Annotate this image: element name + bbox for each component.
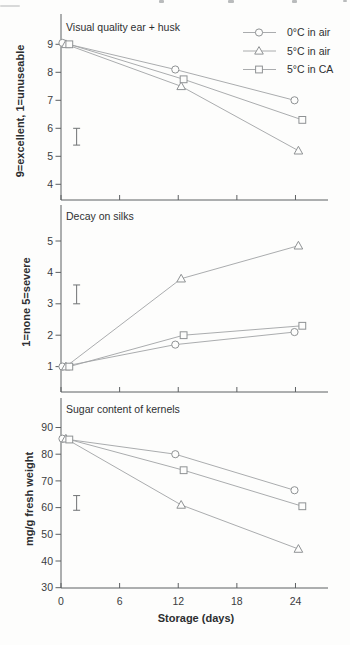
x-tick-label: 0: [58, 595, 64, 607]
circle-marker-icon: [172, 341, 179, 348]
y-tick-label: 50: [41, 528, 53, 540]
legend-label: 5°C in air: [287, 45, 331, 57]
series-line-triangle: [66, 246, 299, 367]
series-line-circle: [62, 439, 294, 491]
legend-item-5c-ca: 5°C in CA: [243, 63, 333, 75]
x-axis-label: Storage (days): [158, 612, 235, 624]
circle-marker-icon: [255, 29, 262, 36]
error-bar: [73, 496, 80, 511]
y-tick-label: 90: [41, 421, 53, 433]
triangle-marker-icon: [255, 47, 264, 55]
y-tick-label: 60: [41, 501, 53, 513]
circle-marker-icon: [291, 487, 298, 494]
square-marker-icon: [180, 467, 187, 474]
y-axis-label-sugar: mg/g fresh weight: [23, 452, 35, 546]
y-axis-label-decay: 1=none 5=severe: [20, 257, 32, 346]
panel-title-visual-quality: Visual quality ear + husk: [66, 21, 181, 33]
panel-title-sugar-content: Sugar content of kernels: [66, 403, 180, 415]
square-marker-icon: [299, 322, 306, 329]
y-tick-label: 1: [47, 360, 53, 372]
legend: 0°C in air 5°C in air 5°C in CA: [243, 26, 333, 75]
y-tick-label: 3: [47, 297, 53, 309]
series-line-triangle: [66, 44, 299, 150]
y-tick-label: 5: [47, 150, 53, 162]
x-tick-label: 12: [172, 595, 184, 607]
y-tick-label: 6: [47, 122, 53, 134]
chart-panels: 456789123453040506070809006121824: [41, 14, 328, 607]
panel-title-decay-on-silks: Decay on silks: [66, 210, 134, 222]
axes: [61, 205, 328, 392]
triangle-marker-icon: [294, 146, 303, 154]
y-tick-label: 8: [47, 66, 53, 78]
error-bar: [73, 128, 80, 145]
square-marker-icon: [299, 503, 306, 510]
legend-item-0c-air: 0°C in air: [243, 26, 331, 38]
x-tick-label: 18: [231, 595, 243, 607]
y-tick-label: 4: [47, 266, 53, 278]
x-tick-label: 6: [117, 595, 123, 607]
square-marker-icon: [66, 41, 73, 48]
circle-marker-icon: [172, 451, 179, 458]
triangle-marker-icon: [294, 241, 303, 249]
y-tick-label: 80: [41, 448, 53, 460]
triangle-marker-icon: [294, 545, 303, 553]
circle-marker-icon: [291, 328, 298, 335]
legend-label: 0°C in air: [287, 26, 331, 38]
y-tick-label: 40: [41, 555, 53, 567]
square-marker-icon: [180, 76, 187, 83]
y-tick-label: 2: [47, 329, 53, 341]
y-tick-label: 4: [47, 178, 53, 190]
figure-page: 456789123453040506070809006121824 Visual…: [0, 0, 350, 645]
y-tick-label: 70: [41, 475, 53, 487]
y-tick-label: 30: [41, 581, 53, 593]
panel-1: 12345: [47, 205, 328, 392]
error-bar: [73, 285, 80, 304]
circle-marker-icon: [172, 66, 179, 73]
square-marker-icon: [180, 332, 187, 339]
legend-label: 5°C in CA: [287, 63, 333, 75]
panel-0: 456789: [47, 14, 328, 200]
x-tick-label: 24: [290, 595, 302, 607]
series-line-triangle: [66, 439, 299, 549]
square-marker-icon: [256, 66, 263, 73]
axes: [61, 398, 328, 588]
axes: [61, 14, 328, 200]
square-marker-icon: [66, 363, 73, 370]
circle-marker-icon: [291, 97, 298, 104]
panel-2: 3040506070809006121824: [41, 398, 328, 607]
legend-item-5c-air: 5°C in air: [243, 45, 331, 57]
y-tick-label: 9: [47, 38, 53, 50]
y-axis-label-visual-quality: 9=excellent, 1=unuseable: [14, 45, 26, 178]
series-line-circle: [62, 332, 294, 367]
triangle-marker-icon: [177, 501, 186, 509]
square-marker-icon: [299, 117, 306, 124]
square-marker-icon: [66, 436, 73, 443]
y-tick-label: 7: [47, 94, 53, 106]
y-tick-label: 5: [47, 235, 53, 247]
three-panel-line-chart: 456789123453040506070809006121824 Visual…: [0, 0, 350, 645]
